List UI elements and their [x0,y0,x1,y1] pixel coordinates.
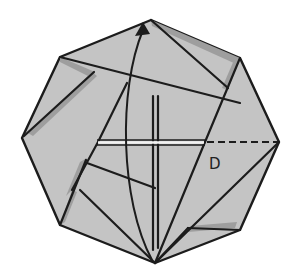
fold-label-d: D [209,155,221,173]
horizontal-crease [97,140,205,145]
origami-octagon-diagram: D [0,0,297,277]
